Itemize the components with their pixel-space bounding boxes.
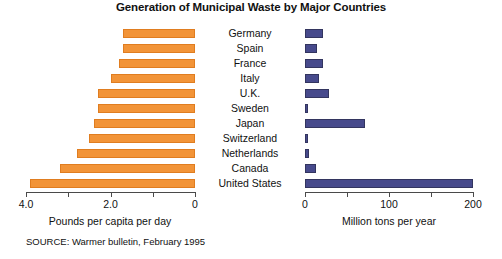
- bar-row: [26, 131, 195, 146]
- bar-row: [26, 176, 195, 191]
- bar-right-france: [305, 59, 323, 68]
- bar-row: [305, 176, 473, 191]
- axis-tick: [26, 193, 27, 197]
- axis-tick-label: 0: [192, 198, 198, 210]
- axis-tick: [195, 193, 196, 197]
- bar-left-italy: [111, 74, 196, 83]
- bar-row: [305, 146, 473, 161]
- bar-right-germany: [305, 29, 323, 38]
- bar-left-germany: [123, 29, 195, 38]
- category-label: Germany: [196, 26, 304, 41]
- bar-left-united-states: [30, 179, 195, 188]
- axis-tick: [431, 193, 432, 197]
- category-label: Netherlands: [196, 146, 304, 161]
- bar-left-sweden: [98, 104, 195, 113]
- bar-row: [305, 161, 473, 176]
- bar-right-canada: [305, 164, 316, 173]
- axis-tick: [473, 193, 474, 197]
- axis-tick-label: 2.0: [103, 198, 118, 210]
- bar-row: [26, 161, 195, 176]
- category-label: Switzerland: [196, 131, 304, 146]
- left-axis-caption: Pounds per capita per day: [49, 215, 172, 227]
- bar-row: [305, 101, 473, 116]
- bar-row: [305, 131, 473, 146]
- axis-tick-label: 100: [380, 198, 398, 210]
- axis-tick: [153, 193, 154, 197]
- bar-row: [26, 86, 195, 101]
- bar-right-netherlands: [305, 149, 309, 158]
- category-label: Italy: [196, 71, 304, 86]
- bar-right-sweden: [305, 104, 308, 113]
- source-note: SOURCE: Warmer bulletin, February 1995: [26, 236, 205, 247]
- right-bar-panel: [305, 26, 473, 192]
- bar-right-japan: [305, 119, 365, 128]
- axis-tick-label: 200: [464, 198, 482, 210]
- bar-left-france: [119, 59, 195, 68]
- bar-right-spain: [305, 44, 317, 53]
- bar-right-united-states: [305, 179, 473, 188]
- bar-left-japan: [94, 119, 195, 128]
- bar-right-switzerland: [305, 134, 308, 143]
- category-label: Canada: [196, 161, 304, 176]
- bar-row: [305, 26, 473, 41]
- axis-tick-label: 0: [302, 198, 308, 210]
- bar-row: [26, 101, 195, 116]
- bar-left-spain: [123, 44, 195, 53]
- bar-row: [305, 116, 473, 131]
- bar-row: [26, 71, 195, 86]
- axis-tick-label: 4.0: [19, 198, 34, 210]
- category-label: Sweden: [196, 101, 304, 116]
- right-axis-caption: Million tons per year: [342, 215, 436, 227]
- left-bar-panel: [26, 26, 195, 192]
- bar-left-netherlands: [77, 149, 195, 158]
- bar-row: [26, 41, 195, 56]
- bar-row: [305, 56, 473, 71]
- category-label: United States: [196, 176, 304, 191]
- category-label-column: GermanySpainFranceItalyU.K.SwedenJapanSw…: [196, 26, 304, 192]
- bar-row: [26, 56, 195, 71]
- category-label: France: [196, 56, 304, 71]
- category-label: Japan: [196, 116, 304, 131]
- bar-row: [26, 146, 195, 161]
- bar-row: [305, 86, 473, 101]
- chart-title: Generation of Municipal Waste by Major C…: [0, 1, 502, 13]
- axis-tick: [305, 193, 306, 197]
- bar-row: [26, 26, 195, 41]
- bar-left-switzerland: [89, 134, 195, 143]
- category-label: Spain: [196, 41, 304, 56]
- axis-tick: [389, 193, 390, 197]
- axis-tick: [68, 193, 69, 197]
- chart-figure: Generation of Municipal Waste by Major C…: [0, 0, 502, 259]
- axis-tick: [111, 193, 112, 197]
- bar-row: [305, 41, 473, 56]
- bar-left-canada: [60, 164, 195, 173]
- bar-right-u-k: [305, 89, 329, 98]
- category-label: U.K.: [196, 86, 304, 101]
- bar-right-italy: [305, 74, 319, 83]
- axis-tick: [347, 193, 348, 197]
- bar-row: [305, 71, 473, 86]
- bar-left-u-k: [98, 89, 195, 98]
- bar-row: [26, 116, 195, 131]
